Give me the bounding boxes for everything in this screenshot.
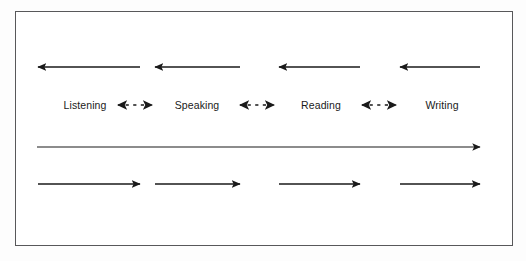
diagram-graphics	[0, 0, 526, 261]
skill-label-writing: Writing	[425, 100, 458, 111]
skill-label-reading: Reading	[301, 100, 341, 111]
screenshot-root: ListeningSpeakingReadingWriting	[0, 0, 526, 261]
skill-label-speaking: Speaking	[175, 100, 220, 111]
skill-label-listening: Listening	[64, 100, 107, 111]
